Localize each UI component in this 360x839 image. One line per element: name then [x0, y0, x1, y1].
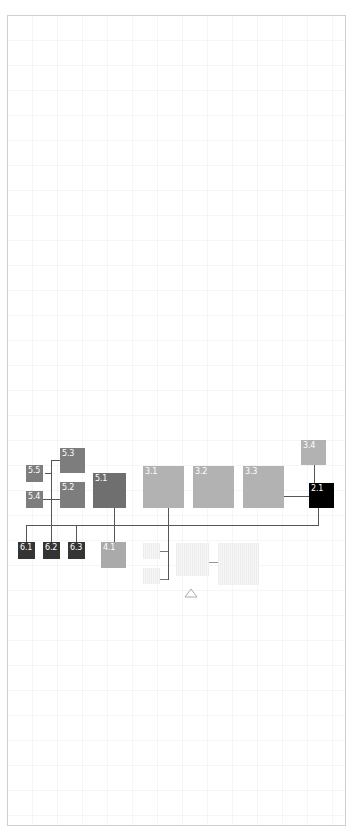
node-label: 4.1 [103, 543, 115, 552]
faint-node-a[interactable] [143, 543, 160, 559]
node-label: 5.3 [62, 449, 74, 458]
node-label: 6.1 [20, 543, 32, 552]
node-5-5[interactable]: 5.5 [26, 465, 43, 482]
node-3-1[interactable]: 3.1 [143, 466, 184, 508]
node-3-3[interactable]: 3.3 [243, 466, 284, 508]
node-label: 5.5 [28, 466, 40, 475]
node-6-2[interactable]: 6.2 [43, 542, 60, 559]
connector-3-3-to-2-1 [284, 496, 309, 497]
connector-5-1-4-1 [114, 508, 115, 542]
node-6-1[interactable]: 6.1 [18, 542, 35, 559]
node-3-2[interactable]: 3.2 [193, 466, 234, 508]
node-2-1[interactable]: 2.1 [309, 483, 334, 508]
faint-node-b[interactable] [143, 568, 160, 584]
node-label: 3.1 [145, 467, 157, 476]
connector-6-1 [26, 525, 27, 542]
connector-5-4-5-2 [43, 499, 60, 500]
node-label: 6.2 [45, 543, 57, 552]
node-5-2[interactable]: 5.2 [60, 482, 85, 508]
node-label: 6.3 [70, 543, 82, 552]
faint-node-d[interactable] [218, 543, 259, 585]
node-label: 3.3 [245, 467, 257, 476]
connector-2-1-down [318, 508, 319, 526]
node-5-3[interactable]: 5.3 [60, 448, 85, 473]
node-3-4[interactable]: 3.4 [301, 440, 326, 465]
node-5-1[interactable]: 5.1 [93, 473, 126, 508]
connector-5-5 [45, 473, 52, 474]
connector-6-3 [76, 525, 77, 542]
connector-5-3 [51, 460, 60, 461]
faint-node-c[interactable] [176, 543, 209, 576]
connector-main-horizontal [26, 525, 319, 526]
node-6-3[interactable]: 6.3 [68, 542, 85, 559]
connector-3-1-down [168, 508, 169, 580]
node-label: 2.1 [311, 484, 323, 493]
node-label: 3.4 [303, 441, 315, 450]
diagram-frame [7, 15, 346, 826]
node-label: 5.4 [28, 492, 40, 501]
node-label: 3.2 [195, 467, 207, 476]
node-label: 5.2 [62, 483, 74, 492]
node-5-4[interactable]: 5.4 [26, 491, 43, 508]
connector-3-4-to-2-1 [314, 465, 315, 483]
connector-faint-a [160, 551, 168, 552]
connector-faint-c [209, 562, 218, 563]
connector-faint-b [160, 579, 168, 580]
triangle-up-icon[interactable] [184, 588, 198, 598]
node-4-1[interactable]: 4.1 [101, 542, 126, 568]
node-label: 5.1 [95, 474, 107, 483]
